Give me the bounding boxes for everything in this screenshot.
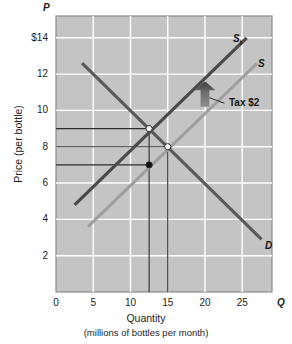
x-tick-label: 0 [44,297,68,308]
y-tick-label: 12 [20,68,48,79]
y-tick-label: 6 [20,177,48,188]
x-tick-label: 15 [156,297,180,308]
supply-with-tax-curve-label: St [233,33,242,46]
supply-curve-label: S [258,58,265,69]
tax-annotation-label: Tax $2 [229,97,259,108]
st-label-subscript: t [240,39,242,46]
y-tick-label: $14 [20,32,48,43]
point-equilibrium-original [165,144,171,150]
point-price-received-by-seller [146,162,152,168]
demand-curve-label: D [265,240,272,251]
y-tick-label: 4 [20,213,48,224]
x-axis-title: Quantity [0,312,292,324]
x-axis-subtitle: (millions of bottles per month) [0,327,292,338]
x-axis-letter: Q [277,297,285,308]
st-label-text: S [233,33,240,44]
supply-demand-tax-chart: P Q $1412108642 0510152025 Price (per bo… [0,0,292,344]
point-equilibrium-with-tax [146,125,152,131]
y-axis-letter: P [43,2,50,13]
y-axis-title: Price (per bottle) [12,89,24,199]
x-tick-label: 5 [81,297,105,308]
y-tick-label: 10 [20,104,48,115]
chart-canvas [0,0,292,344]
x-tick-label: 25 [230,297,254,308]
x-tick-label: 20 [193,297,217,308]
y-tick-label: 8 [20,141,48,152]
x-tick-label: 10 [118,297,142,308]
y-tick-label: 2 [20,250,48,261]
